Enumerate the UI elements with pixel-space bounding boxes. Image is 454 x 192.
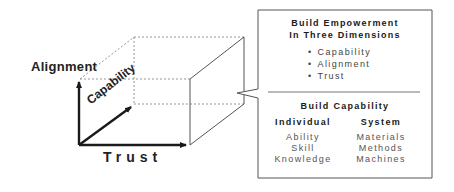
- column-item: Ability: [262, 132, 344, 143]
- trust-axis-label: Trust: [103, 149, 162, 165]
- individual-column: Individual Ability Skill Knowledge: [262, 117, 344, 165]
- system-column: System Materials Methods Machines: [340, 117, 422, 165]
- column-heading: System: [340, 117, 422, 128]
- column-item: Materials: [340, 132, 422, 143]
- column-item: Knowledge: [262, 154, 344, 165]
- bullet-item: Capability: [308, 46, 371, 58]
- capability-axis-arrow: [79, 107, 131, 145]
- column-item: Methods: [340, 143, 422, 154]
- callout-title-line2: In Three Dimensions: [258, 30, 432, 40]
- build-capability-title: Build Capability: [258, 101, 432, 111]
- bullet-item: Alignment: [308, 58, 371, 70]
- alignment-axis-label: Alignment: [31, 59, 97, 74]
- bullet-item: Trust: [308, 70, 371, 82]
- column-item: Skill: [262, 143, 344, 154]
- dimension-bullet-list: Capability Alignment Trust: [308, 46, 371, 82]
- column-item: Machines: [340, 154, 422, 165]
- column-heading: Individual: [262, 117, 344, 128]
- cube-visible-edges: [190, 37, 244, 145]
- callout-title-line1: Build Empowerment: [258, 18, 432, 28]
